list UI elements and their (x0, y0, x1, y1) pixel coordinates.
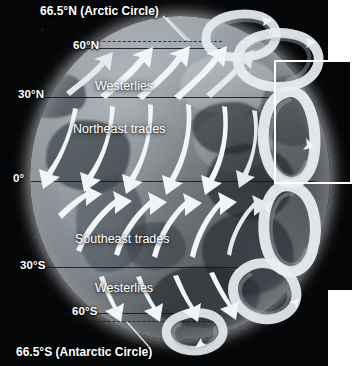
label-westerlies-south: Westerlies (95, 281, 153, 295)
label-antarctic-circle: 66.5°S (Antarctic Circle) (16, 345, 152, 359)
label-lat-60s: 60°S (72, 305, 97, 317)
highlight-selection-rectangle[interactable] (274, 60, 352, 184)
label-lat-60n: 60°N (73, 39, 99, 51)
label-westerlies-north: Westerlies (95, 79, 153, 93)
globe-circulation-figure: 66.5°N (Arctic Circle) 60°N 30°N 0° 30°S… (0, 0, 364, 366)
label-northeast-trades: Northeast trades (73, 122, 165, 136)
label-lat-equator: 0° (13, 172, 24, 184)
ferrel-cell-south (233, 263, 300, 319)
label-southeast-trades: Southeast trades (75, 232, 170, 246)
label-lat-30s: 30°S (20, 259, 45, 271)
hadley-cell-south (262, 186, 315, 272)
wind-arrows-northeast-trades (39, 104, 258, 195)
label-arctic-circle: 66.5°N (Arctic Circle) (40, 4, 159, 18)
label-lat-30n: 30°N (18, 88, 44, 100)
wind-arrows-southeast-trades (58, 185, 270, 258)
leader-line-arctic (163, 16, 186, 40)
